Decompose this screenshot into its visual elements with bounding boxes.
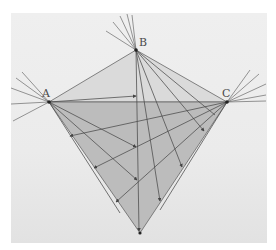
label-b: B — [139, 36, 147, 49]
label-a: A — [41, 87, 51, 100]
point-d — [138, 231, 141, 234]
point-c — [225, 100, 229, 104]
label-c: C — [222, 87, 230, 100]
geometric-figure: A B C — [0, 0, 276, 250]
point-b — [134, 48, 138, 52]
point-a — [47, 100, 51, 104]
